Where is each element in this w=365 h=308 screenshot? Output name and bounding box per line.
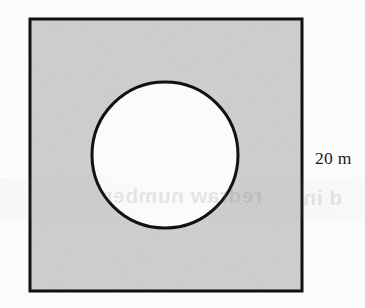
square-shaded-fill	[30, 19, 302, 291]
side-length-label: 20 m	[315, 148, 352, 169]
square-with-circular-hole-svg	[0, 0, 365, 308]
geometry-figure: redraw number d in	[0, 0, 365, 308]
